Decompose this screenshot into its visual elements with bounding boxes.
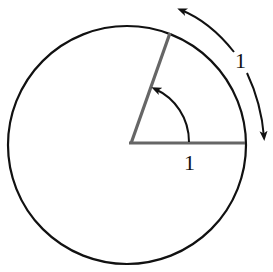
angled-radius: [131, 33, 170, 144]
unit-circle: [8, 26, 246, 264]
radian-diagram: 1 1: [0, 0, 273, 272]
radius-label: 1: [184, 150, 195, 175]
arc-length-arrow-upper: [181, 10, 234, 52]
arc-length-label: 1: [235, 48, 246, 73]
angle-arrow: [155, 89, 189, 142]
arc-length-arrow-lower: [247, 73, 264, 137]
